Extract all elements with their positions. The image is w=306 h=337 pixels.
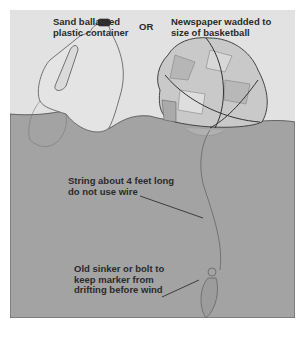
- sinker-label: Old sinker or bolt to keep marker from d…: [74, 264, 164, 296]
- newspaper-label: Newspaper wadded to size of basketball: [171, 17, 271, 38]
- or-label: OR: [139, 22, 153, 33]
- string-label: String about 4 feet long do not use wire: [68, 176, 174, 197]
- container-label: Sand ballasted plastic container: [53, 17, 129, 38]
- diagram-panel: Sand ballasted plastic container OR News…: [10, 10, 295, 318]
- newspaper-ball-icon: [158, 38, 268, 136]
